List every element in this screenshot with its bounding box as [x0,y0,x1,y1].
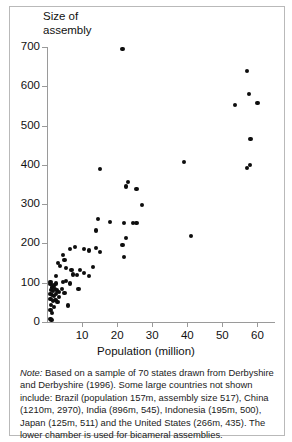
x-axis-title: Population (million) [0,345,292,357]
data-point [75,273,79,277]
data-point [94,246,98,250]
y-axis-title: Size of assembly [43,10,92,37]
data-point [82,271,86,275]
y-tick-label: 200 [0,236,40,248]
data-point [69,268,73,272]
data-point [140,203,144,207]
data-point [94,228,98,232]
data-point [122,221,126,225]
data-point [96,217,100,221]
y-tick-label: 500 [0,119,40,131]
data-point [54,281,58,285]
note-text: Based on a sample of 70 states drawn fro… [20,367,274,440]
y-tick-label: 700 [0,40,40,52]
scatter-plot-figure: Size of assembly 0100200300400500600700 … [0,0,292,442]
data-point [68,281,72,285]
y-tick-label: 100 [0,276,40,288]
y-tick-label: 600 [0,79,40,91]
data-point [98,167,102,171]
data-point [124,184,128,188]
x-tick-mark [82,322,83,327]
figure-note: Note: Based on a sample of 70 states dra… [20,367,276,441]
data-point [62,291,66,295]
plot-area: Size of assembly 0100200300400500600700 … [0,0,292,350]
x-tick-mark [187,322,188,327]
data-point [73,245,77,249]
x-tick-label: 30 [146,329,159,341]
data-point [62,258,66,262]
data-point [68,247,72,251]
x-tick-mark [257,322,258,327]
data-point [76,287,80,291]
data-point [134,221,138,225]
data-point [64,266,68,270]
data-point [124,236,128,240]
data-point [58,264,62,268]
x-tick-label: 60 [251,329,264,341]
x-tick-label: 40 [181,329,194,341]
data-point [66,303,70,307]
data-point [50,311,54,315]
data-point [87,274,91,278]
data-point [61,253,65,257]
y-tick-mark [42,204,47,205]
note-label: Note: [20,367,42,378]
y-tick-mark [42,322,47,323]
y-tick-label: 300 [0,197,40,209]
data-point [126,180,130,184]
data-point [134,187,138,191]
data-point [245,166,249,170]
data-point [255,101,259,105]
y-tick-mark [42,283,47,284]
data-point [120,47,124,51]
x-tick-mark [222,322,223,327]
y-tick-mark [42,86,47,87]
data-point [91,265,95,269]
data-point [122,255,126,259]
x-tick-mark [117,322,118,327]
data-point [120,243,124,247]
data-point [54,274,58,278]
data-point [108,220,112,224]
y-tick-mark [42,126,47,127]
data-point [245,69,249,73]
data-point [82,247,86,251]
y-tick-mark [42,243,47,244]
x-tick-label: 50 [216,329,229,341]
data-point [55,300,59,304]
data-point [182,160,186,164]
data-point [247,92,251,96]
data-point [49,318,53,322]
y-tick-label: 0 [0,315,40,327]
data-point [98,250,102,254]
data-point [87,248,91,252]
x-tick-label: 10 [76,329,89,341]
x-tick-mark [152,322,153,327]
data-point [233,103,237,107]
y-tick-mark [42,47,47,48]
y-tick-mark [42,165,47,166]
data-point [71,272,75,276]
data-point [248,137,252,141]
data-point [189,234,193,238]
x-tick-label: 20 [111,329,124,341]
y-tick-label: 400 [0,158,40,170]
